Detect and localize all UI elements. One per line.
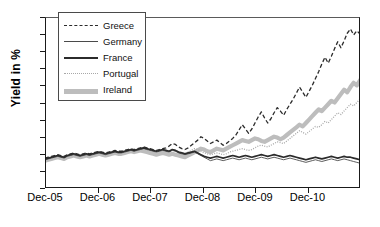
legend-swatch-germany	[64, 36, 98, 46]
x-tick-mark	[98, 188, 99, 193]
legend-item-france: France	[59, 49, 145, 65]
x-tick-mark	[308, 188, 309, 193]
legend-swatch-greece	[64, 20, 98, 30]
y-axis-title: Yield in %	[6, 28, 26, 128]
x-tick-mark	[150, 188, 151, 193]
legend-label-greece: Greece	[103, 20, 134, 31]
x-tick-mark	[255, 188, 256, 193]
y-tick-mark	[40, 188, 45, 189]
legend-swatch-ireland	[64, 84, 98, 94]
legend-item-germany: Germany	[59, 33, 145, 49]
legend: Greece Germany France Portugal Ireland	[58, 12, 146, 101]
legend-item-portugal: Portugal	[59, 65, 145, 81]
legend-item-ireland: Ireland	[59, 81, 145, 97]
legend-label-france: France	[103, 52, 133, 63]
legend-label-germany: Germany	[103, 36, 142, 47]
legend-swatch-portugal	[64, 68, 98, 78]
legend-swatch-france	[64, 52, 98, 62]
x-tick-mark	[203, 188, 204, 193]
legend-item-greece: Greece	[59, 17, 145, 33]
legend-label-portugal: Portugal	[103, 68, 138, 79]
legend-label-ireland: Ireland	[103, 84, 132, 95]
chart-container: Yield in % 02468101214161820 Dec-05Dec-0…	[0, 0, 380, 227]
